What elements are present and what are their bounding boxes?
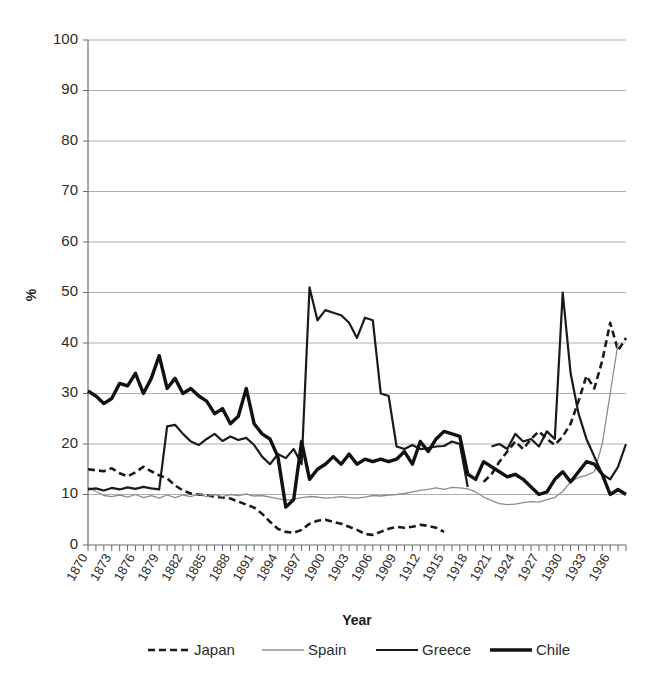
chart-container: 0102030405060708090100 18701873187618791… (0, 0, 651, 678)
legend-label-chile: Chile (536, 641, 570, 658)
y-axis-tick-label: 40 (61, 333, 78, 350)
legend-label-japan: Japan (194, 641, 235, 658)
y-axis-tick-label: 90 (61, 80, 78, 97)
y-axis-tick-label: 80 (61, 131, 78, 148)
y-axis-tick-label: 60 (61, 232, 78, 249)
y-axis-tick-label: 0 (70, 535, 78, 552)
x-axis-title: Year (342, 612, 372, 628)
y-axis-tick-label: 10 (61, 484, 78, 501)
y-axis-tick-label: 50 (61, 282, 78, 299)
y-axis-tick-label: 100 (53, 30, 78, 47)
y-axis-tick-label: 30 (61, 383, 78, 400)
y-axis-tick-label: 70 (61, 181, 78, 198)
y-axis-tick-label: 20 (61, 434, 78, 451)
line-chart: 0102030405060708090100 18701873187618791… (0, 0, 651, 678)
legend-label-spain: Spain (308, 641, 346, 658)
y-axis-title: % (23, 288, 39, 301)
legend-label-greece: Greece (422, 641, 471, 658)
